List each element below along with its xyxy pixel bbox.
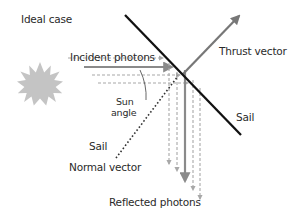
sail-label-left: Sail [89, 141, 107, 152]
thrust-vector-label: Thrust vector [219, 46, 287, 57]
reflected-photons-label: Reflected photons [109, 197, 201, 208]
normal-vector-label: Normal vector [69, 162, 141, 173]
sun-angle-label-line2: angle [111, 108, 136, 118]
solar-sail-diagram [0, 0, 299, 216]
sun-angle-label-line1: Sun [116, 97, 133, 107]
incident-photons-label: Incident photons [70, 52, 155, 63]
title-label: Ideal case [21, 14, 72, 25]
sail-label-right: Sail [236, 112, 254, 123]
sun-icon [17, 62, 63, 106]
